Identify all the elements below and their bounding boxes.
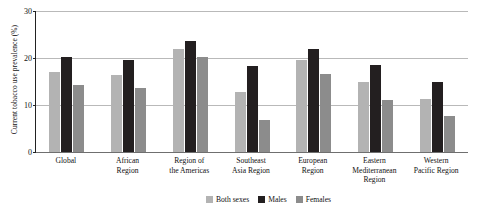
category-label: Region ofthe Americas [158, 156, 220, 175]
bar [296, 60, 307, 152]
category-label-line: Pacific Region [405, 166, 467, 176]
bar [111, 75, 122, 152]
category-label-line: Mediterranean [344, 166, 406, 176]
category-label: WesternPacific Region [405, 156, 467, 175]
bar-group [420, 11, 455, 152]
legend-swatch-icon [258, 196, 265, 203]
bar [444, 116, 455, 152]
legend-swatch-icon [296, 196, 303, 203]
bar [61, 57, 72, 152]
bar [432, 82, 443, 152]
category-label-line: Region [97, 166, 159, 176]
y-axis-label: Current tobacco use prevalence (%) [10, 5, 19, 155]
bar [49, 72, 60, 152]
bar [259, 120, 270, 152]
category-label-line: Eastern [344, 156, 406, 166]
bar [73, 85, 84, 152]
legend-swatch-icon [206, 196, 213, 203]
bar-group [358, 11, 393, 152]
y-tick-label: 10 [24, 101, 32, 110]
y-tick-label: 30 [24, 7, 32, 16]
category-label-line: Western [405, 156, 467, 166]
y-tick-label: 0 [28, 148, 32, 157]
category-label: EuropeanRegion [282, 156, 344, 175]
cut-off-caption [150, 0, 410, 6]
bar [235, 92, 246, 152]
legend-item[interactable]: Females [296, 195, 331, 204]
bar [420, 99, 431, 152]
bar [123, 60, 134, 152]
category-label-line: Southeast [220, 156, 282, 166]
legend-label: Both sexes [216, 195, 249, 204]
legend-item[interactable]: Both sexes [206, 195, 249, 204]
legend-label: Males [268, 195, 287, 204]
category-label-line: Global [35, 156, 97, 166]
category-label-line: Region [344, 175, 406, 185]
bar [382, 100, 393, 152]
bar [308, 49, 319, 152]
y-tick-label: 20 [24, 54, 32, 63]
bar-group [296, 11, 331, 152]
bar [185, 41, 196, 152]
plot-area: 0102030 [35, 11, 467, 152]
category-label-line: Region of [158, 156, 220, 166]
category-label-line: Asia Region [220, 166, 282, 176]
category-labels: GlobalAfricanRegionRegion ofthe Americas… [35, 156, 467, 192]
legend-label: Females [306, 195, 331, 204]
bar [370, 65, 381, 152]
bar [197, 57, 208, 152]
x-axis-baseline [36, 152, 468, 153]
chart-figure: Current tobacco use prevalence (%) 01020… [0, 0, 480, 216]
bar [135, 88, 146, 152]
legend-item[interactable]: Males [258, 195, 287, 204]
category-label: AfricanRegion [97, 156, 159, 175]
bar [247, 66, 258, 152]
bar-group [49, 11, 84, 152]
category-label-line: African [97, 156, 159, 166]
category-label: Global [35, 156, 97, 166]
bar-group [235, 11, 270, 152]
bar [173, 49, 184, 152]
bar-groups [36, 11, 468, 152]
bar-group [111, 11, 146, 152]
bar [320, 74, 331, 152]
category-label-line: the Americas [158, 166, 220, 176]
category-label: EasternMediterraneanRegion [344, 156, 406, 185]
bar-group [173, 11, 208, 152]
category-label: SoutheastAsia Region [220, 156, 282, 175]
chart-legend: Both sexesMalesFemales [206, 195, 331, 204]
bar [358, 82, 369, 152]
category-label-line: Region [282, 166, 344, 176]
category-label-line: European [282, 156, 344, 166]
